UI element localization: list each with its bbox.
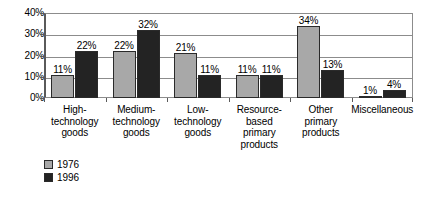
bar-value-label: 11%: [53, 64, 72, 75]
bar-value-label: 13%: [323, 59, 342, 70]
legend-item[interactable]: 1976: [44, 158, 79, 171]
x-axis-labels: High-technologygoodsMedium-technologygoo…: [44, 104, 413, 150]
x-axis-label-line: Resource-: [229, 104, 291, 116]
bar-group: 1%4%: [352, 13, 414, 98]
chart-legend: 19761996: [44, 158, 79, 184]
y-axis-tick-label: 20%: [6, 51, 44, 61]
x-axis-tick: [44, 98, 45, 102]
x-axis-label-line: technology: [167, 116, 229, 128]
bar-1976-1: 22%: [113, 51, 136, 98]
x-axis-category-label: Low-technologygoods: [167, 104, 229, 139]
x-axis-label-line: primary: [290, 116, 352, 128]
bar-value-label: 11%: [200, 64, 219, 75]
x-axis-tick: [412, 98, 413, 102]
x-axis-category-label: Resource-basedprimaryproducts: [229, 104, 291, 150]
bar-1976-4: 34%: [297, 26, 320, 98]
legend-label: 1976: [57, 159, 79, 170]
x-axis-label-line: High-: [44, 104, 106, 116]
x-axis-tick: [167, 98, 168, 102]
legend-swatch: [44, 173, 53, 182]
bar-value-label: 32%: [138, 19, 157, 30]
x-axis-category-label: Medium-technologygoods: [106, 104, 168, 139]
x-axis-label-line: products: [290, 127, 352, 139]
y-axis: 0%10%20%30%40%: [0, 0, 44, 197]
bar-1976-2: 21%: [174, 53, 197, 98]
x-axis-tick: [229, 98, 230, 102]
x-axis-tick: [290, 98, 291, 102]
bar-value-label: 11%: [238, 64, 257, 75]
bar-1996-5: 4%: [383, 90, 406, 99]
bar-1996-4: 13%: [321, 70, 344, 98]
x-axis-label-line: goods: [106, 127, 168, 139]
legend-swatch: [44, 160, 53, 169]
bar-value-label: 22%: [77, 40, 96, 51]
x-axis-tick: [352, 98, 353, 102]
x-axis-label-line: products: [229, 139, 291, 151]
y-axis-tick-label: 0%: [6, 93, 44, 103]
bar-value-label: 34%: [299, 15, 318, 26]
x-axis-label-line: primary: [229, 127, 291, 139]
x-axis-label-line: based: [229, 116, 291, 128]
bar-1996-0: 22%: [75, 51, 98, 98]
bar-value-label: 22%: [114, 40, 133, 51]
bar-1996-3: 11%: [260, 75, 283, 98]
bar-chart: 0%10%20%30%40% 11%22%22%32%21%11%11%11%3…: [0, 0, 429, 197]
y-axis-tick-label: 10%: [6, 72, 44, 82]
x-axis-label-line: Medium-: [106, 104, 168, 116]
bar-1996-2: 11%: [198, 75, 221, 98]
y-axis-tick-label: 40%: [6, 8, 44, 18]
bar-1996-1: 32%: [137, 30, 160, 98]
y-axis-tick-label: 30%: [6, 29, 44, 39]
x-axis-label-line: goods: [167, 127, 229, 139]
legend-item[interactable]: 1996: [44, 171, 79, 184]
bar-group: 11%11%: [229, 13, 291, 98]
x-axis-label-line: Miscellaneous: [338, 104, 428, 116]
bar-group: 21%11%: [167, 13, 229, 98]
bar-group: 34%13%: [290, 13, 352, 98]
x-axis-category-label: Miscellaneous: [338, 104, 428, 116]
x-axis-ticks: [44, 98, 413, 102]
bar-1976-3: 11%: [236, 75, 259, 98]
x-axis-label-line: Low-: [167, 104, 229, 116]
bar-1976-0: 11%: [51, 75, 74, 98]
x-axis-tick: [106, 98, 107, 102]
bar-value-label: 1%: [363, 85, 377, 96]
x-axis-label-line: technology: [44, 116, 106, 128]
bars-layer: 11%22%22%32%21%11%11%11%34%13%1%4%: [44, 13, 413, 98]
legend-label: 1996: [57, 172, 79, 183]
bar-group: 22%32%: [106, 13, 168, 98]
x-axis-category-label: High-technologygoods: [44, 104, 106, 139]
bar-group: 11%22%: [44, 13, 106, 98]
x-axis-label-line: goods: [44, 127, 106, 139]
x-axis-label-line: technology: [106, 116, 168, 128]
bar-value-label: 11%: [262, 64, 281, 75]
bar-value-label: 21%: [176, 42, 195, 53]
bar-value-label: 4%: [387, 79, 401, 90]
